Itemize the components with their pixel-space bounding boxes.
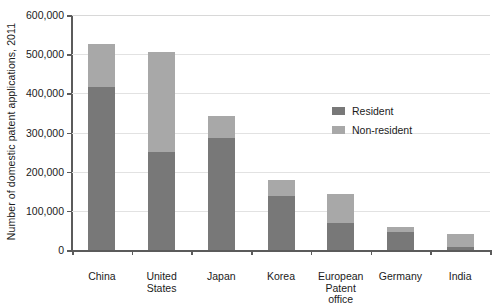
bar-segment-resident[interactable]	[327, 223, 354, 250]
legend-label: Resident	[352, 105, 393, 117]
bar-stack[interactable]	[88, 44, 115, 250]
y-tick-label: 200,000	[26, 166, 64, 177]
gridline	[72, 133, 490, 134]
bar-segment-non-resident[interactable]	[208, 116, 235, 138]
y-tick-mark	[67, 211, 72, 213]
x-tick-label: Japan	[191, 271, 251, 283]
chart-legend: ResidentNon-resident	[332, 101, 412, 139]
y-tick-label: 400,000	[26, 88, 64, 99]
bar-stack[interactable]	[148, 52, 175, 250]
bar-segment-non-resident[interactable]	[327, 194, 354, 222]
x-tick-mark	[371, 250, 373, 255]
bar-stack[interactable]	[268, 180, 295, 250]
gridline	[72, 15, 490, 16]
y-tick-mark	[67, 15, 72, 17]
y-axis-title: Number of domestic patent applications, …	[0, 0, 22, 285]
x-tick-label: India	[430, 271, 490, 283]
x-tick-mark	[490, 250, 492, 255]
x-tick-mark	[132, 250, 134, 255]
y-tick-mark	[67, 172, 72, 174]
plot-area: 0100,000200,000300,000400,000500,000600,…	[72, 15, 490, 250]
y-tick-mark	[67, 54, 72, 56]
x-tick-label: United States	[132, 271, 192, 294]
legend-label: Non-resident	[352, 124, 412, 136]
x-tick-label: European Patent office	[311, 271, 371, 306]
bar-segment-resident[interactable]	[447, 247, 474, 250]
bar-segment-non-resident[interactable]	[88, 44, 115, 88]
x-tick-mark	[430, 250, 432, 255]
y-tick-label: 600,000	[26, 10, 64, 21]
y-tick-label: 300,000	[26, 127, 64, 138]
bar-segment-non-resident[interactable]	[268, 180, 295, 196]
bar-segment-non-resident[interactable]	[148, 52, 175, 152]
bar-segment-resident[interactable]	[268, 196, 295, 250]
bar-segment-resident[interactable]	[387, 232, 414, 250]
legend-item[interactable]: Resident	[332, 101, 412, 120]
x-tick-mark	[72, 250, 74, 255]
bar-stack[interactable]	[327, 194, 354, 250]
legend-swatch-icon	[332, 126, 345, 134]
bar-segment-resident[interactable]	[88, 87, 115, 250]
y-tick-mark	[67, 93, 72, 95]
gridline	[72, 54, 490, 55]
y-tick-label: 500,000	[26, 49, 64, 60]
legend-swatch-icon	[332, 107, 345, 115]
bar-stack[interactable]	[447, 234, 474, 250]
x-tick-mark	[311, 250, 313, 255]
y-tick-label: 0	[58, 245, 64, 256]
x-tick-label: China	[72, 271, 132, 283]
x-axis-spine	[71, 250, 490, 252]
bar-stack[interactable]	[208, 116, 235, 250]
legend-item[interactable]: Non-resident	[332, 120, 412, 139]
x-tick-mark	[251, 250, 253, 255]
bar-stack[interactable]	[387, 227, 414, 251]
y-tick-label: 100,000	[26, 206, 64, 217]
bar-segment-resident[interactable]	[208, 138, 235, 250]
y-tick-mark	[67, 133, 72, 135]
gridline	[72, 172, 490, 173]
bar-segment-resident[interactable]	[148, 152, 175, 250]
bar-segment-non-resident[interactable]	[447, 234, 474, 247]
x-tick-label: Germany	[371, 271, 431, 283]
bar-segment-non-resident[interactable]	[387, 227, 414, 233]
x-tick-mark	[191, 250, 193, 255]
gridline	[72, 93, 490, 94]
x-tick-label: Korea	[251, 271, 311, 283]
patent-applications-chart: Number of domestic patent applications, …	[0, 0, 500, 307]
